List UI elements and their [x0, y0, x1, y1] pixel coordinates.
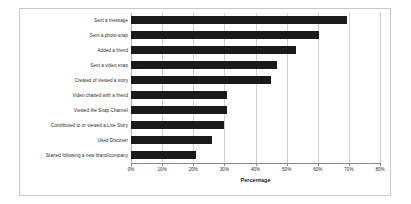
- x-tick-label: 80%: [368, 167, 392, 172]
- category-label: Video chatted with a friend: [20, 88, 128, 103]
- category-label: Started following a new brand/company: [20, 148, 128, 163]
- plot-area: [131, 13, 380, 163]
- x-tick: [162, 163, 163, 166]
- x-tick: [131, 163, 132, 166]
- x-tick: [318, 163, 319, 166]
- bar: [131, 31, 319, 39]
- gridline-80pct: [380, 13, 381, 163]
- bar-row: [131, 43, 380, 58]
- bar-row: [131, 13, 380, 28]
- bar-series: [131, 13, 380, 163]
- x-tick: [193, 163, 194, 166]
- bar: [131, 46, 296, 54]
- bar-row: [131, 103, 380, 118]
- x-tick: [380, 163, 381, 166]
- x-tick: [349, 163, 350, 166]
- x-tick-label: 60%: [306, 167, 330, 172]
- bar: [131, 121, 224, 129]
- bar: [131, 16, 347, 24]
- x-tick-label: 50%: [275, 167, 299, 172]
- bar: [131, 76, 271, 84]
- x-tick-label: 0%: [119, 167, 143, 172]
- bar-row: [131, 73, 380, 88]
- category-label: Sent a video snap: [20, 58, 128, 73]
- category-label: Added a friend: [20, 43, 128, 58]
- chart-figure: Sent a messageSent a photo snapAdded a f…: [0, 0, 411, 204]
- x-tick: [224, 163, 225, 166]
- x-tick-label: 70%: [337, 167, 361, 172]
- category-label: Used Discover: [20, 133, 128, 148]
- category-label: Created of viewed a story: [20, 73, 128, 88]
- x-tick-label: 10%: [150, 167, 174, 172]
- x-tick-label: 20%: [181, 167, 205, 172]
- category-label: Sent a message: [20, 13, 128, 28]
- category-label: Sent a photo snap: [20, 28, 128, 43]
- x-tick: [256, 163, 257, 166]
- category-label: Viewed the Snap Channel: [20, 103, 128, 118]
- bar-row: [131, 58, 380, 73]
- bar-row: [131, 28, 380, 43]
- x-tick-label: 40%: [244, 167, 268, 172]
- bar-row: [131, 133, 380, 148]
- x-tick-label: 30%: [212, 167, 236, 172]
- x-axis-title: Percentage: [131, 177, 380, 183]
- bar-row: [131, 88, 380, 103]
- bar-row: [131, 148, 380, 163]
- bar: [131, 136, 212, 144]
- bar: [131, 151, 196, 159]
- bar: [131, 61, 277, 69]
- category-label: Contributed to or viewed a Live Story: [20, 118, 128, 133]
- bar-row: [131, 118, 380, 133]
- bar: [131, 91, 227, 99]
- bar: [131, 106, 227, 114]
- x-tick: [287, 163, 288, 166]
- y-axis-category-labels: Sent a messageSent a photo snapAdded a f…: [20, 13, 128, 163]
